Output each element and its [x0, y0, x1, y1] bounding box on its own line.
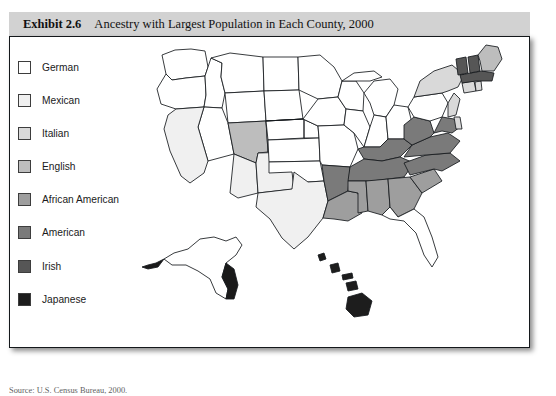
legend-label-italian: Italian — [42, 128, 69, 139]
legend-item-english[interactable]: English — [18, 157, 150, 177]
exhibit-figure: Exhibit 2.6Ancestry with Largest Populat… — [9, 12, 530, 348]
state-south-dakota[interactable] — [264, 90, 303, 121]
legend-swatch-american — [18, 226, 31, 239]
legend-swatch-english — [18, 160, 31, 173]
state-florida[interactable] — [382, 207, 438, 267]
state-north-dakota[interactable] — [263, 57, 299, 91]
choropleth-map — [142, 41, 526, 343]
figure-frame: German Mexican Italian English African A… — [9, 36, 530, 348]
legend-label-japanese: Japanese — [42, 294, 86, 305]
legend-item-italian[interactable]: Italian — [18, 123, 150, 143]
state-alabama[interactable] — [366, 179, 390, 215]
state-kansas[interactable] — [268, 138, 320, 162]
state-wyoming[interactable] — [225, 91, 266, 123]
legend-item-mexican[interactable]: Mexican — [18, 90, 150, 110]
legend-label-irish: Irish — [42, 261, 61, 272]
hawaii-big-island[interactable] — [346, 293, 372, 317]
state-maine[interactable] — [478, 45, 502, 71]
legend-item-african-american[interactable]: African American — [18, 190, 150, 210]
hawaii-oahu[interactable] — [330, 263, 340, 273]
state-minnesota[interactable] — [298, 55, 342, 99]
legend-swatch-african-american — [18, 193, 31, 206]
legend-label-german: German — [42, 62, 79, 73]
legend-label-mexican: Mexican — [42, 95, 80, 106]
map-legend: German Mexican Italian English African A… — [18, 57, 150, 323]
state-vermont[interactable] — [456, 57, 468, 75]
legend-label-african-american: African American — [42, 194, 119, 205]
legend-swatch-japanese — [18, 293, 31, 306]
legend-item-german[interactable]: German — [18, 57, 150, 77]
legend-label-english: English — [42, 161, 75, 172]
exhibit-number: Exhibit 2.6 — [23, 17, 81, 31]
state-rhode-island[interactable] — [475, 81, 482, 91]
hawaii-kauai[interactable] — [318, 253, 326, 261]
legend-swatch-irish — [18, 260, 31, 273]
alaska-islands[interactable] — [142, 259, 164, 269]
state-new-hampshire[interactable] — [468, 55, 480, 73]
legend-item-japanese[interactable]: Japanese — [18, 289, 150, 309]
legend-item-american[interactable]: American — [18, 223, 150, 243]
legend-swatch-italian — [18, 127, 31, 140]
page-title: Ancestry with Largest Population in Each… — [94, 17, 373, 31]
legend-swatch-german — [18, 61, 31, 74]
state-new-jersey[interactable] — [448, 93, 460, 117]
state-washington[interactable] — [162, 49, 208, 80]
state-iowa[interactable] — [303, 97, 346, 126]
source-caption: Source: U.S. Census Bureau, 2000. — [9, 386, 429, 396]
legend-label-american: American — [42, 227, 85, 238]
exhibit-title-bar: Exhibit 2.6Ancestry with Largest Populat… — [9, 12, 530, 36]
legend-swatch-mexican — [18, 94, 31, 107]
state-oregon[interactable] — [157, 74, 206, 109]
state-new-york[interactable] — [414, 65, 464, 97]
hawaii-molokai[interactable] — [342, 273, 353, 280]
legend-item-irish[interactable]: Irish — [18, 256, 150, 276]
hawaii-maui[interactable] — [346, 281, 358, 291]
